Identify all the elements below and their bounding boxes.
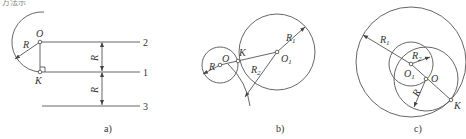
line-2-label: 2 [143, 37, 148, 48]
point-o-c [424, 77, 428, 81]
header-fragment: 方法示 [2, 0, 26, 7]
line-3-label: 3 [143, 101, 148, 112]
tangent-arc-diagram: 方法示 R 2 1 3 R R O K a) [0, 0, 466, 139]
label-o-a: O [36, 28, 43, 39]
dimension-label-upper: R [89, 55, 100, 62]
label-k-a: K [34, 75, 43, 86]
panel-b: R O K O1 R1 R2 b) [202, 14, 315, 135]
radius-label-a: R [22, 39, 29, 50]
panel-c: R1 R2 O1 O R K c) [356, 7, 466, 135]
label-r2-c: R2 [411, 50, 422, 63]
point-k-b [236, 59, 240, 63]
label-k-c: K [453, 100, 462, 111]
caption-c: c) [414, 123, 422, 135]
caption-b: b) [276, 123, 284, 135]
label-k-b: K [238, 47, 247, 58]
label-r1-c: R1 [379, 34, 390, 47]
point-o1-b [275, 50, 279, 54]
point-o1-c [409, 62, 413, 66]
label-o1-b: O1 [281, 53, 292, 66]
label-o-b: O [222, 53, 229, 64]
point-o-a [38, 40, 42, 44]
label-r2-b: R2 [250, 64, 261, 77]
label-o-c: O [431, 73, 438, 84]
label-r-c: R [409, 88, 422, 99]
caption-a: a) [104, 123, 112, 135]
point-k-a [38, 70, 42, 74]
r2-line-b [245, 52, 277, 97]
dimension-label-lower: R [89, 87, 100, 94]
point-k-c [449, 98, 453, 102]
arc-b [228, 64, 250, 106]
label-o1-c: O1 [404, 68, 415, 81]
line-1-label: 1 [143, 67, 148, 78]
panel-a: R 2 1 3 R R O K a) [12, 12, 148, 135]
label-r-b: R [208, 61, 215, 72]
